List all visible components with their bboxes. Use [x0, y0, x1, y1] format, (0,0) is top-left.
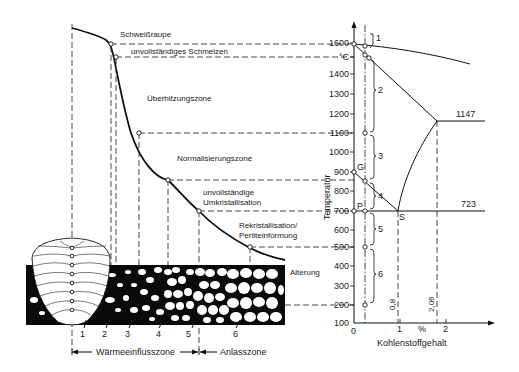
- y-tick-200: 200: [334, 300, 349, 310]
- y-axis-label: Temperatur: [322, 174, 332, 220]
- section-2: 2: [102, 329, 107, 339]
- y-tick-700: 700: [334, 206, 349, 216]
- point-p: P: [357, 201, 363, 211]
- brace-2: 2: [378, 85, 383, 95]
- label-anlasszone: Anlasszone: [220, 347, 267, 357]
- brace-4: 4: [378, 191, 383, 201]
- x-tick-0: 0: [351, 326, 356, 336]
- se-line: [398, 121, 437, 211]
- label-umkristallisation: Umkristallisation: [203, 198, 261, 207]
- y-tick-400: 400: [334, 261, 349, 271]
- y-tick-1100: 1100: [330, 128, 349, 138]
- y-tick-800: 800: [334, 186, 349, 196]
- x-tick-2: 2: [443, 324, 448, 334]
- label-perliteinformung: Perliteinformung: [239, 231, 297, 240]
- y-tick-1200: 1200: [329, 109, 349, 119]
- brace-6: 6: [378, 269, 383, 279]
- label-alterung: Alterung: [290, 268, 320, 277]
- y-tick-1400: 1400: [329, 69, 349, 79]
- isotherm-723: 723: [461, 199, 476, 209]
- label-normalisierungszone: Normalisierungszone: [177, 154, 253, 163]
- point-g: G: [357, 162, 364, 172]
- x-axis-arrow-icon: [488, 321, 495, 326]
- curve-points: [109, 42, 252, 249]
- section-1: 1: [80, 329, 85, 339]
- x-tick-labels: 0 1 % 2: [351, 324, 448, 336]
- fe-c-diagram: 1600 °C 1400 1300 1200 1100 1000 900 800…: [322, 21, 495, 348]
- y-tick-1300: 1300: [329, 89, 349, 99]
- section-4: 4: [156, 329, 161, 339]
- y-tick-300: 300: [334, 281, 349, 291]
- y-tick-500: 500: [334, 242, 349, 252]
- y-tick-900: 900: [334, 167, 349, 177]
- y-axis-arrow-icon: [352, 21, 357, 28]
- zone-labels: Schweißraupe unvollständiges Schmelzen Ü…: [120, 30, 320, 277]
- section-6: 6: [233, 329, 238, 339]
- marker-0-8: 0,8: [388, 298, 397, 310]
- point-s: S: [399, 212, 405, 222]
- welding-heat-zone-diagram: Schweißraupe unvollständiges Schmelzen Ü…: [0, 0, 519, 372]
- section-3: 3: [125, 329, 130, 339]
- y-tick-1000: 1000: [329, 147, 349, 157]
- temperature-braces: [370, 34, 376, 303]
- isotherm-1147: 1147: [456, 109, 475, 119]
- label-schweissraupe: Schweißraupe: [120, 30, 172, 39]
- section-5: 5: [186, 329, 191, 339]
- label-unvollstaendiges-schmelzen: unvollständiges Schmelzen: [131, 47, 228, 56]
- y-tick-100: 100: [334, 318, 349, 328]
- brace-1: 1: [376, 33, 381, 43]
- marker-2-06: 2,06: [427, 296, 436, 312]
- label-rekristallisation: Rekristallisation/: [239, 221, 298, 230]
- microstructure-strip: [26, 238, 285, 325]
- brace-5: 5: [378, 224, 383, 234]
- x-axis-label: Kohlenstoffgehalt: [377, 338, 447, 348]
- range-arrows: Wärmeeinflusszone Anlasszone: [72, 347, 267, 357]
- brace-3: 3: [378, 151, 383, 161]
- y-tick-600: 600: [334, 225, 349, 235]
- x-unit-percent: %: [418, 324, 426, 334]
- y-tick-labels: 1600 °C 1400 1300 1200 1100 1000 900 800…: [329, 38, 350, 328]
- y-unit-celsius: °C: [339, 52, 350, 62]
- x-tick-1: 1: [397, 324, 402, 334]
- y-tick-1600: 1600: [329, 38, 349, 48]
- label-waermeeinflusszone: Wärmeeinflusszone: [96, 347, 175, 357]
- liquidus-line: [354, 44, 470, 64]
- label-ueberhitzungszone: Überhitzungszone: [147, 94, 212, 103]
- label-unvollstaendige: unvollständige: [203, 188, 255, 197]
